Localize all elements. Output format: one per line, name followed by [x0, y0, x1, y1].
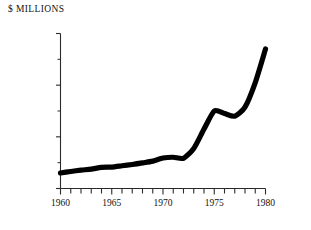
x-tick-label: 1980: [256, 198, 275, 208]
x-tick-label: 1960: [51, 198, 70, 208]
plot-area: [0, 0, 311, 230]
data-series-line: [61, 49, 266, 173]
x-tick-label: 1965: [102, 198, 121, 208]
x-tick-label: 1970: [154, 198, 173, 208]
axis-lines: [61, 34, 266, 189]
x-tick-label: 1975: [205, 198, 224, 208]
line-chart: $ MILLIONS 020,00040,00060,000 196019651…: [0, 0, 311, 230]
